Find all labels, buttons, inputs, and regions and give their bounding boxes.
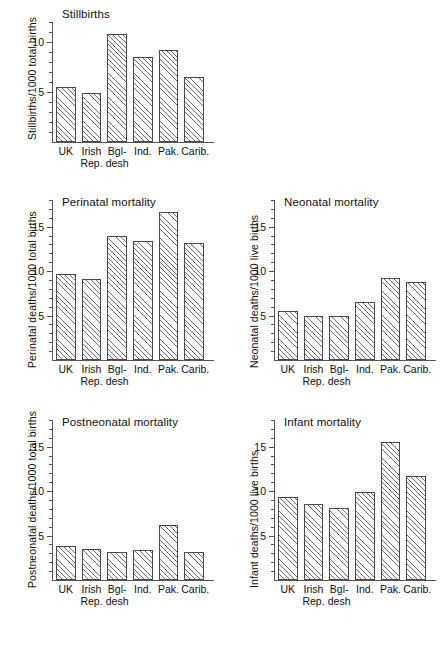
bar-cell (53, 420, 79, 580)
y-tick-neonatal-17 (271, 209, 274, 210)
x-tick-label-line1: Bgl- (108, 145, 127, 157)
y-tick-postneonatal-13 (49, 464, 52, 465)
x-tick-label-line1: Ind. (134, 145, 152, 157)
x-axis-line-infant (274, 580, 436, 581)
bar-cell (326, 200, 352, 360)
y-tick-stillbirths-8 (49, 62, 52, 63)
y-tick-infant-13 (271, 464, 274, 465)
y-tick-postneonatal-1 (49, 571, 52, 572)
y-tick-perinatal-12 (49, 253, 52, 254)
bar-series-perinatal (53, 200, 209, 360)
x-tick-label-neonatal-1: IrishRep. (301, 364, 327, 387)
y-tick-postneonatal-2 (49, 562, 52, 563)
bar-cell (104, 22, 130, 142)
x-tick-label-line1: Carib. (181, 363, 209, 375)
y-tick-infant-5 (269, 536, 274, 537)
y-tick-stillbirths-2 (49, 122, 52, 123)
bar-neonatal-irishrep (304, 316, 324, 360)
x-tick-label-line1: Bgl- (108, 363, 127, 375)
x-tick-label-line2: Rep. (79, 158, 105, 170)
bar-stillbirths-uk (56, 87, 76, 142)
bar-series-stillbirths (53, 22, 209, 142)
plot-area-infant: 51015 (274, 420, 436, 580)
bar-cell (352, 200, 378, 360)
x-tick-label-line1: UK (281, 363, 296, 375)
x-tick-label-line1: Bgl- (330, 363, 349, 375)
y-tick-perinatal-17 (49, 209, 52, 210)
y-tick-perinatal-3 (49, 333, 52, 334)
y-tick-perinatal-2 (49, 342, 52, 343)
x-tick-label-line1: Ind. (134, 363, 152, 375)
y-tick-label-perinatal-10: 10 (32, 266, 44, 277)
bar-cell (79, 22, 105, 142)
bar-stillbirths-ind (133, 57, 153, 142)
y-tick-stillbirths-11 (49, 32, 52, 33)
y-tick-postneonatal-6 (49, 527, 52, 528)
y-tick-infant-11 (271, 482, 274, 483)
bar-neonatal-carib (406, 282, 426, 360)
bar-cell (181, 200, 207, 360)
y-tick-perinatal-18 (49, 200, 52, 201)
x-tick-label-line1: Carib. (181, 145, 209, 157)
y-tick-stillbirths-7 (49, 72, 52, 73)
bar-series-postneonatal (53, 420, 209, 580)
y-tick-label-perinatal-15: 15 (32, 221, 44, 232)
x-tick-label-stillbirths-3: Ind. (130, 146, 156, 169)
y-tick-neonatal-11 (271, 262, 274, 263)
y-tick-infant-12 (271, 473, 274, 474)
chart-title-stillbirths: Stillbirths (62, 8, 110, 20)
bar-cell (104, 420, 130, 580)
y-tick-postneonatal-9 (49, 500, 52, 501)
bar-postneonatal-uk (56, 546, 76, 580)
bar-postneonatal-bgldesh (107, 552, 127, 580)
bar-infant-uk (278, 497, 298, 580)
x-tick-label-postneonatal-1: IrishRep. (79, 584, 105, 607)
x-tick-label-line1: Irish (82, 363, 102, 375)
x-tick-label-line2: Rep. (79, 596, 105, 608)
bar-postneonatal-irishrep (82, 549, 102, 580)
y-tick-neonatal-12 (271, 253, 274, 254)
x-tick-label-line2: desh (326, 596, 352, 608)
bar-cell (156, 200, 182, 360)
bar-cell (156, 420, 182, 580)
y-tick-perinatal-13 (49, 244, 52, 245)
bar-neonatal-pak (381, 278, 401, 360)
x-tick-label-line1: Irish (82, 583, 102, 595)
y-tick-neonatal-3 (271, 333, 274, 334)
y-tick-postneonatal-14 (49, 456, 52, 457)
y-axis-label-postneonatal: Postneonatal deaths/1000 total births (26, 411, 38, 588)
y-tick-postneonatal-16 (49, 438, 52, 439)
bar-cell (181, 420, 207, 580)
bar-neonatal-ind (355, 302, 375, 360)
x-tick-label-line1: UK (59, 145, 74, 157)
y-tick-postneonatal-7 (49, 518, 52, 519)
plot-area-postneonatal: 51015 (52, 420, 214, 580)
y-tick-label-neonatal-5: 5 (260, 310, 266, 321)
bar-series-infant (275, 420, 431, 580)
y-tick-perinatal-15 (47, 227, 52, 228)
y-tick-infant-7 (271, 518, 274, 519)
y-tick-infant-9 (271, 500, 274, 501)
x-tick-label-perinatal-2: Bgl-desh (104, 364, 130, 387)
y-tick-postneonatal-18 (49, 420, 52, 421)
x-tick-label-perinatal-5: Carib. (181, 364, 207, 387)
x-tick-label-postneonatal-2: Bgl-desh (104, 584, 130, 607)
x-tick-label-perinatal-3: Ind. (130, 364, 156, 387)
bar-cell (301, 200, 327, 360)
y-tick-infant-18 (271, 420, 274, 421)
y-tick-perinatal-9 (49, 280, 52, 281)
bar-perinatal-uk (56, 274, 76, 360)
x-tick-label-line1: UK (59, 363, 74, 375)
y-tick-postneonatal-17 (49, 429, 52, 430)
x-tick-label-infant-0: UK (275, 584, 301, 607)
y-tick-label-infant-10: 10 (254, 486, 266, 497)
bar-stillbirths-irishrep (82, 93, 102, 142)
y-tick-perinatal-16 (49, 218, 52, 219)
x-axis-line-postneonatal (52, 580, 214, 581)
x-tick-label-line1: Irish (304, 363, 324, 375)
bar-cell (104, 200, 130, 360)
y-tick-stillbirths-6 (49, 82, 52, 83)
y-axis-label-neonatal: Neonatal deaths/1000 live births (248, 215, 260, 368)
y-tick-stillbirths-12 (49, 22, 52, 23)
bar-cell (378, 420, 404, 580)
